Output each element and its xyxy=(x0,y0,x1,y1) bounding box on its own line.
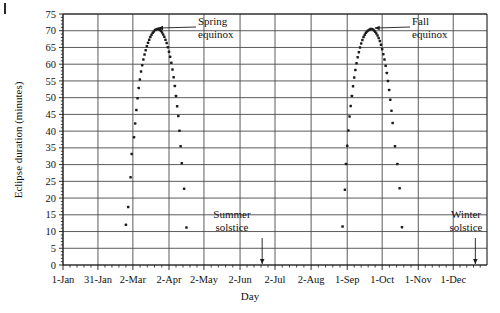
data-point xyxy=(183,187,186,190)
y-tick-label: 5 xyxy=(51,243,56,254)
y-tick-label: 10 xyxy=(46,226,57,237)
data-point xyxy=(384,65,387,68)
data-point xyxy=(169,56,172,59)
spring-equinox-label-line2: equinox xyxy=(198,28,234,40)
data-point xyxy=(137,87,140,90)
x-tick-label: 2-May xyxy=(190,274,219,285)
fall-equinox-leader xyxy=(375,27,410,28)
data-point xyxy=(174,85,177,88)
data-point xyxy=(149,36,152,39)
data-point xyxy=(133,136,136,139)
data-point xyxy=(387,80,390,83)
data-point xyxy=(352,85,355,88)
data-point xyxy=(134,122,137,125)
data-point xyxy=(355,62,358,64)
x-tick-label: 2-Jun xyxy=(228,274,252,285)
data-point xyxy=(139,78,142,81)
x-tick-label: 31-Jan xyxy=(84,274,113,285)
data-point xyxy=(146,45,149,48)
data-point xyxy=(394,145,397,148)
data-point xyxy=(168,51,171,54)
y-axis-title: Eclipse duration (minutes) xyxy=(12,81,25,198)
data-point xyxy=(130,153,133,156)
data-point xyxy=(127,206,130,209)
data-point xyxy=(347,129,350,132)
data-point xyxy=(172,76,175,79)
fall-equinox-label-line2: equinox xyxy=(412,28,448,40)
y-tick-label: 55 xyxy=(46,76,57,87)
data-point xyxy=(140,70,143,73)
data-point xyxy=(361,39,364,42)
data-point xyxy=(345,163,348,166)
x-tick-label: 1-Jan xyxy=(52,274,75,285)
data-point xyxy=(163,36,166,39)
data-point xyxy=(398,187,401,190)
y-tick-label: 60 xyxy=(46,59,57,70)
x-tick-label: 2-Aug xyxy=(298,274,326,285)
data-point xyxy=(389,98,392,101)
spring-equinox-leader xyxy=(158,27,196,28)
data-point xyxy=(348,115,351,118)
data-point xyxy=(176,105,179,108)
summer-solstice-label-line2: solstice xyxy=(216,221,249,233)
summer-solstice-label-line1: Summer xyxy=(213,208,251,220)
data-point xyxy=(381,48,384,51)
data-point xyxy=(391,122,394,125)
data-point xyxy=(344,188,347,191)
x-tick-label: 2-Mar xyxy=(120,274,147,285)
data-point xyxy=(354,69,357,72)
fall-equinox-leader-head xyxy=(375,26,380,30)
data-point xyxy=(179,145,182,148)
data-point xyxy=(165,42,168,45)
x-tick-label: 1-Nov xyxy=(405,274,433,285)
data-point xyxy=(147,42,150,45)
eclipse-duration-chart: 051015202530354045505560657075 1-Jan31-J… xyxy=(0,0,500,313)
y-tick-label: 75 xyxy=(46,9,57,20)
data-point xyxy=(382,53,385,56)
grid-layer xyxy=(63,14,487,265)
data-point xyxy=(349,105,352,108)
y-tick-label: 70 xyxy=(46,25,57,36)
eclipse-duration-figure: 051015202530354045505560657075 1-Jan31-J… xyxy=(0,0,500,313)
data-point xyxy=(390,109,393,112)
data-point xyxy=(380,44,383,47)
y-tick-label: 25 xyxy=(46,176,57,187)
x-tick-label: 1-Sep xyxy=(335,274,360,285)
data-point xyxy=(136,97,139,100)
data-point xyxy=(185,226,188,229)
annotations-layer: SpringequinoxFallequinoxSummersolsticeWi… xyxy=(158,15,483,264)
winter-solstice-label-line2: solstice xyxy=(450,221,483,233)
spring-equinox-label-line1: Spring xyxy=(198,15,228,27)
data-point xyxy=(129,176,132,179)
data-point xyxy=(341,225,344,228)
y-axis-tick-labels: 051015202530354045505560657075 xyxy=(46,9,57,271)
x-tick-label: 2-Apr xyxy=(156,274,182,285)
y-tick-label: 40 xyxy=(46,126,57,137)
y-tick-label: 0 xyxy=(51,260,56,271)
data-point xyxy=(376,34,379,37)
winter-solstice-leader-head xyxy=(473,259,477,264)
y-tick-label: 50 xyxy=(46,92,57,103)
y-tick-label: 20 xyxy=(46,193,57,204)
winter-solstice-label-line1: Winter xyxy=(451,208,481,220)
x-axis-title: Day xyxy=(241,290,260,302)
data-point xyxy=(142,58,145,61)
summer-solstice-leader-head xyxy=(260,259,264,264)
data-point xyxy=(401,226,404,229)
data-point xyxy=(143,53,146,56)
data-point xyxy=(144,49,147,52)
y-tick-label: 45 xyxy=(46,109,57,120)
data-point xyxy=(379,40,382,43)
data-point xyxy=(170,62,173,65)
data-point xyxy=(360,42,363,45)
data-point xyxy=(141,64,144,66)
data-point xyxy=(148,39,151,42)
data-point xyxy=(362,36,365,39)
data-point xyxy=(162,33,165,36)
data-point xyxy=(396,163,399,166)
data-point xyxy=(178,130,181,133)
y-tick-label: 65 xyxy=(46,42,57,53)
y-tick-label: 15 xyxy=(46,209,57,220)
x-tick-label: 1-Dec xyxy=(440,274,466,285)
data-point xyxy=(359,46,362,49)
